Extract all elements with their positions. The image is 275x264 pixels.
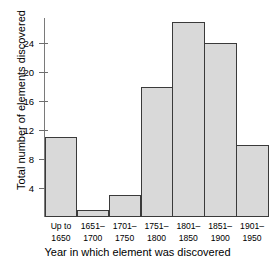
y-tick-label: 12 bbox=[23, 125, 34, 136]
y-tick-label: 20 bbox=[23, 67, 34, 78]
plot-area: 4812162024 bbox=[44, 18, 268, 217]
x-tick-label-line1: 1851– bbox=[204, 221, 236, 233]
x-tick-label-line2: 1850 bbox=[172, 233, 204, 245]
x-tick-label-line2: 1800 bbox=[141, 233, 173, 245]
bar bbox=[77, 210, 109, 217]
x-tick-label-line1: 1651– bbox=[77, 221, 109, 233]
x-tick-label-line1: 1751– bbox=[141, 221, 173, 233]
x-tick-label-line2: 1700 bbox=[77, 233, 109, 245]
x-tick-label-line2: 1650 bbox=[45, 233, 77, 245]
y-tick-label: 8 bbox=[29, 154, 34, 165]
bar bbox=[172, 22, 204, 217]
x-tick-label-line1: 1801– bbox=[172, 221, 204, 233]
y-tick-label: 24 bbox=[23, 38, 34, 49]
bar bbox=[109, 195, 141, 217]
x-tick-label: Up to1650 bbox=[45, 221, 77, 244]
bar bbox=[45, 137, 77, 217]
x-tick-label-line1: Up to bbox=[45, 221, 77, 233]
bar bbox=[141, 87, 173, 217]
x-tick-label: 1751–1800 bbox=[141, 221, 173, 244]
y-tick-label: 4 bbox=[29, 183, 34, 194]
bar bbox=[204, 43, 236, 217]
x-axis-title: Year in which element was discovered bbox=[0, 246, 275, 258]
x-tick-label-line2: 1950 bbox=[236, 233, 268, 245]
bar-series bbox=[45, 18, 268, 217]
x-tick-label-line1: 1901– bbox=[236, 221, 268, 233]
x-tick-label: 1851–1900 bbox=[204, 221, 236, 244]
x-tick-label: 1651–1700 bbox=[77, 221, 109, 244]
x-tick-label: 1801–1850 bbox=[172, 221, 204, 244]
x-tick-label-line2: 1750 bbox=[109, 233, 141, 245]
y-tick-label: 16 bbox=[23, 96, 34, 107]
x-tick-label: 1701–1750 bbox=[109, 221, 141, 244]
x-tick-label-line2: 1900 bbox=[204, 233, 236, 245]
histogram-figure: Total number of elements discovered 4812… bbox=[0, 0, 275, 264]
bar bbox=[236, 145, 268, 217]
x-tick-label-line1: 1701– bbox=[109, 221, 141, 233]
x-tick-label: 1901–1950 bbox=[236, 221, 268, 244]
